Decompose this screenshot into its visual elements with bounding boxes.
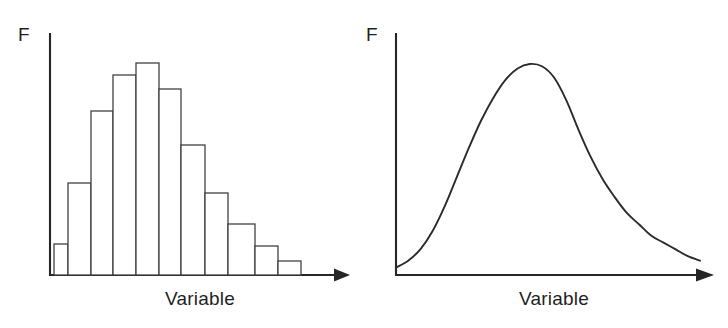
- figure-root: F Variable F Variable: [0, 0, 728, 328]
- frequency-curve-line: [396, 64, 700, 268]
- histogram-svg: F Variable: [0, 0, 364, 328]
- histogram-y-axis-label: F: [18, 24, 30, 45]
- histogram-bar: [68, 183, 91, 275]
- curve-x-axis-arrow-icon: [696, 269, 714, 282]
- histogram-bar: [91, 111, 113, 275]
- histogram-bar: [228, 224, 255, 275]
- histogram-bar: [278, 261, 301, 275]
- frequency-curve-svg: F Variable: [364, 0, 728, 328]
- frequency-curve-panel: F Variable: [364, 0, 728, 328]
- histogram-x-axis-arrow-icon: [334, 269, 350, 282]
- curve-x-axis-label: Variable: [519, 288, 589, 309]
- histogram-bar-group: [54, 63, 301, 275]
- histogram-panel: F Variable: [0, 0, 364, 328]
- histogram-bar: [113, 75, 136, 275]
- histogram-bar: [136, 63, 159, 275]
- histogram-bar: [181, 145, 205, 275]
- histogram-bar: [255, 246, 278, 275]
- histogram-bar: [54, 244, 68, 275]
- histogram-bar: [205, 193, 228, 275]
- curve-y-axis-label: F: [366, 24, 378, 45]
- histogram-bar: [159, 89, 181, 275]
- histogram-x-axis-label: Variable: [165, 288, 235, 309]
